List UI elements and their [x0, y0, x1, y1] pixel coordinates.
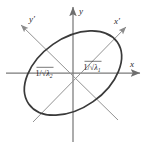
y-prime-axis-label: y′	[28, 14, 36, 24]
semi-major-subscript: 1	[98, 67, 101, 73]
semi-minor-axis-label: 1/√λ2	[36, 67, 54, 79]
x-prime-axis-label: x′	[113, 16, 121, 26]
svg-text:1/√λ1: 1/√λ1	[84, 63, 101, 73]
x-axis-label: x	[129, 59, 134, 69]
y-axis-label: y	[78, 6, 83, 16]
semi-minor-subscript: 2	[50, 73, 53, 79]
semi-major-axis-label: 1/√λ1	[84, 61, 102, 73]
ellipse-principal-axes-figure: y x x′ y′ 1/√λ1 1/√λ2	[0, 0, 156, 147]
svg-text:1/√λ2: 1/√λ2	[36, 69, 53, 79]
